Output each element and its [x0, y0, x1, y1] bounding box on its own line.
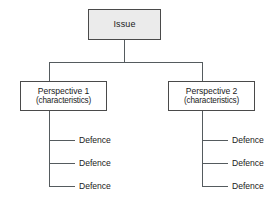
node-perspective-1-sublabel: (characteristics)	[36, 96, 91, 105]
connector-bus-drop-right	[202, 62, 203, 81]
node-perspective-2-sublabel: (characteristics)	[184, 96, 239, 105]
connector-leaf	[202, 186, 228, 187]
node-issue[interactable]: Issue	[88, 9, 161, 40]
leaf-defence-label: Defence	[79, 180, 111, 192]
connector-leaf	[49, 163, 75, 164]
connector-leaf	[49, 186, 75, 187]
leaf-defence-label: Defence	[232, 157, 264, 169]
connector-top-bus	[49, 62, 203, 63]
node-perspective-2[interactable]: Perspective 2 (characteristics)	[168, 81, 255, 111]
node-issue-label: Issue	[113, 19, 135, 29]
leaf-defence-label: Defence	[79, 157, 111, 169]
connector-bus-drop-left	[49, 62, 50, 81]
connector-leaf	[202, 140, 228, 141]
node-perspective-1[interactable]: Perspective 1 (characteristics)	[20, 81, 107, 111]
connector-spine-left	[49, 111, 50, 186]
leaf-defence-label: Defence	[232, 134, 264, 146]
node-perspective-1-label: Perspective 1	[38, 87, 89, 97]
issue-perspective-defence-diagram: Issue Perspective 1 (characteristics) Pe…	[0, 0, 272, 206]
connector-spine-right	[202, 111, 203, 186]
connector-issue-stem	[124, 40, 125, 62]
node-perspective-2-label: Perspective 2	[186, 87, 237, 97]
connector-leaf	[202, 163, 228, 164]
leaf-defence-label: Defence	[232, 180, 264, 192]
leaf-defence-label: Defence	[79, 134, 111, 146]
connector-leaf	[49, 140, 75, 141]
